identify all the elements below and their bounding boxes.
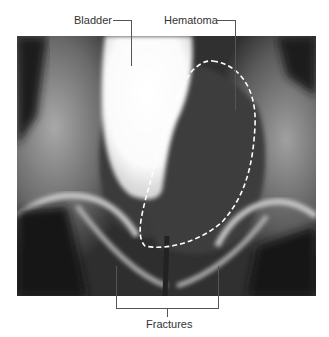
fractures-bracket-right <box>218 266 219 309</box>
hematoma-leader-horizontal <box>216 20 236 21</box>
hematoma-label: Hematoma <box>164 14 218 26</box>
fractures-label: Fractures <box>146 318 192 330</box>
fractures-bracket-left <box>116 266 117 309</box>
bladder-leader-horizontal <box>113 20 132 21</box>
xray-drawing <box>17 36 316 296</box>
xray-image <box>17 36 316 296</box>
hematoma-leader-vertical <box>235 20 236 110</box>
fractures-bracket-stem <box>167 308 168 317</box>
bladder-leader-vertical <box>131 20 132 66</box>
bladder-label: Bladder <box>74 14 112 26</box>
